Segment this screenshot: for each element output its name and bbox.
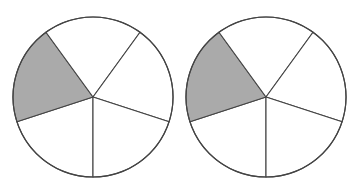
fraction-circle-right bbox=[186, 17, 346, 177]
fraction-circles-diagram bbox=[0, 0, 363, 193]
fraction-circle-left bbox=[13, 17, 173, 177]
